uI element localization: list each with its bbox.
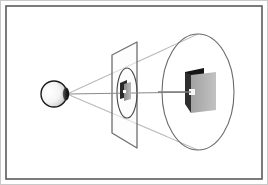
figure-root: An eye at the left projects a cone of si… xyxy=(0,0,268,185)
perspective-projection-diagram xyxy=(0,0,268,185)
near-object-group xyxy=(120,80,131,101)
near-highlight-square xyxy=(123,90,126,93)
eye-pupil xyxy=(63,88,69,101)
far-object-group xyxy=(158,68,216,113)
eye-group xyxy=(41,81,69,107)
